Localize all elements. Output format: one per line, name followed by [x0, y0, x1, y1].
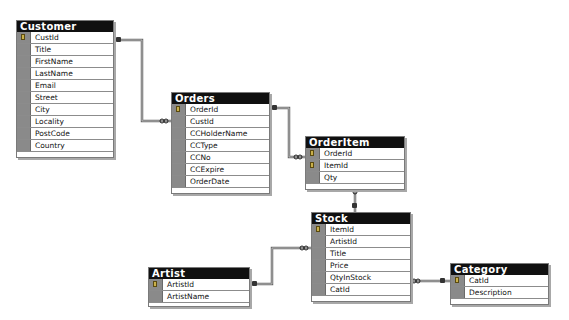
column-row[interactable]: CCNo: [172, 152, 269, 164]
column-row[interactable]: Title: [312, 248, 410, 260]
column-name: Title: [326, 248, 346, 259]
row-selector: [17, 92, 31, 103]
row-selector: [17, 140, 31, 151]
column-row[interactable]: ArtistId: [312, 236, 410, 248]
key-icon: [272, 105, 277, 110]
column-row[interactable]: OrderDate: [172, 176, 269, 188]
table-footer: [149, 303, 249, 306]
link-customer-orders: [112, 40, 171, 121]
column-name: Description: [465, 287, 512, 298]
row-selector: [172, 152, 186, 163]
column-name: CustId: [186, 116, 214, 127]
link-artist-stock: [248, 248, 311, 284]
column-row[interactable]: LastName: [17, 68, 113, 80]
row-selector: [17, 128, 31, 139]
column-name: ArtistId: [163, 279, 194, 290]
column-name: CCNo: [186, 152, 211, 163]
row-selector: [451, 287, 465, 298]
row-selector: [17, 116, 31, 127]
primary-key-icon: [17, 32, 31, 43]
table-footer: [17, 152, 113, 157]
row-selector: [172, 164, 186, 175]
column-row[interactable]: CatId: [312, 284, 410, 296]
column-name: FirstName: [31, 56, 73, 67]
column-name: City: [31, 104, 50, 115]
table-category[interactable]: Category CatId Description: [450, 263, 549, 305]
table-title[interactable]: Orders: [172, 93, 269, 104]
table-footer: [451, 299, 548, 304]
table-footer: [172, 188, 269, 193]
column-name: PostCode: [31, 128, 70, 139]
row-selector: [17, 56, 31, 67]
column-row[interactable]: CustId: [172, 116, 269, 128]
column-row[interactable]: Qty: [306, 172, 404, 184]
row-selector: [172, 176, 186, 187]
column-row[interactable]: Price: [312, 260, 410, 272]
primary-key-icon: [149, 279, 163, 290]
table-title[interactable]: Artist: [149, 268, 249, 279]
row-selector: [17, 68, 31, 79]
column-name: Country: [31, 140, 65, 151]
column-row[interactable]: Street: [17, 92, 113, 104]
column-row[interactable]: CatId: [451, 275, 548, 287]
row-selector: [17, 44, 31, 55]
column-row[interactable]: Locality: [17, 116, 113, 128]
column-row[interactable]: ArtistId: [149, 279, 249, 291]
column-row[interactable]: CCHolderName: [172, 128, 269, 140]
row-selector: [17, 80, 31, 91]
table-title[interactable]: OrderItem: [306, 137, 404, 148]
table-customer[interactable]: Customer CustId Title FirstName LastName…: [16, 20, 114, 158]
column-name: QtyInStock: [326, 272, 371, 283]
column-name: OrderDate: [186, 176, 229, 187]
column-name: ArtistName: [163, 291, 209, 302]
table-title[interactable]: Customer: [17, 21, 113, 32]
column-row[interactable]: CCType: [172, 140, 269, 152]
column-name: OrderId: [320, 148, 352, 159]
column-row[interactable]: CCExpire: [172, 164, 269, 176]
table-title[interactable]: Stock: [312, 213, 410, 224]
primary-key-icon: [312, 224, 326, 235]
column-row[interactable]: ItemId: [306, 160, 404, 172]
row-selector: [306, 172, 320, 183]
column-row[interactable]: PostCode: [17, 128, 113, 140]
column-row[interactable]: ArtistName: [149, 291, 249, 303]
key-icon: [116, 37, 121, 42]
table-orderitem[interactable]: OrderItem OrderId ItemId Qty: [305, 136, 405, 190]
column-row[interactable]: Description: [451, 287, 548, 299]
column-row[interactable]: FirstName: [17, 56, 113, 68]
row-selector: [312, 284, 326, 295]
column-name: Qty: [320, 172, 337, 183]
column-row[interactable]: ItemId: [312, 224, 410, 236]
column-row[interactable]: Title: [17, 44, 113, 56]
column-row[interactable]: OrderId: [172, 104, 269, 116]
table-footer: [306, 184, 404, 189]
row-selector: [172, 128, 186, 139]
column-row[interactable]: Email: [17, 80, 113, 92]
row-selector: [17, 104, 31, 115]
column-row[interactable]: Country: [17, 140, 113, 152]
link-orders-orderitem: [268, 108, 305, 157]
table-title[interactable]: Category: [451, 264, 548, 275]
table-footer: [312, 296, 410, 301]
row-selector: [149, 291, 163, 302]
column-name: CatId: [465, 275, 489, 286]
primary-key-icon: [306, 160, 320, 171]
row-selector: [172, 140, 186, 151]
column-row[interactable]: QtyInStock: [312, 272, 410, 284]
column-row[interactable]: OrderId: [306, 148, 404, 160]
column-row[interactable]: CustId: [17, 32, 113, 44]
column-row[interactable]: City: [17, 104, 113, 116]
key-icon: [440, 278, 445, 283]
row-selector: [312, 260, 326, 271]
table-orders[interactable]: Orders OrderId CustId CCHolderName CCTyp…: [171, 92, 270, 194]
row-selector: [172, 116, 186, 127]
table-artist[interactable]: Artist ArtistId ArtistName: [148, 267, 250, 307]
column-name: ItemId: [320, 160, 348, 171]
primary-key-icon: [172, 104, 186, 115]
table-stock[interactable]: Stock ItemId ArtistId Title Price QtyInS…: [311, 212, 411, 302]
column-name: Title: [31, 44, 51, 55]
column-name: Locality: [31, 116, 64, 127]
row-selector: [312, 248, 326, 259]
row-selector: [312, 236, 326, 247]
column-name: CCHolderName: [186, 128, 247, 139]
